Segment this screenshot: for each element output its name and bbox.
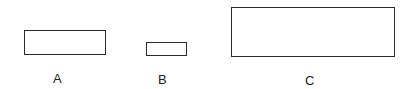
label-c: C xyxy=(305,74,314,87)
rectangle-c xyxy=(231,7,395,57)
rectangle-b xyxy=(146,42,187,56)
rectangle-a xyxy=(24,30,106,55)
label-b: B xyxy=(158,73,167,86)
label-a: A xyxy=(53,72,62,85)
